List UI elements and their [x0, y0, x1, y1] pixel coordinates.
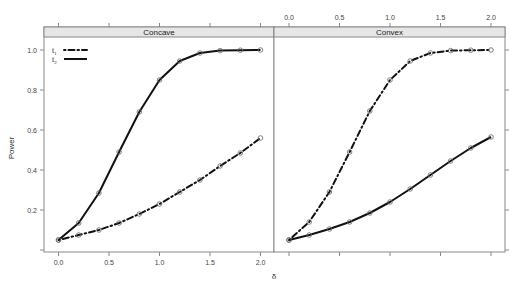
y-tick-label: 0.2 — [27, 207, 37, 214]
panel-convex: Convex — [274, 27, 505, 252]
x-tick-label: 2.0 — [256, 259, 266, 266]
y-tick-label: 0.8 — [27, 87, 37, 94]
y-tick-label: 0.4 — [27, 167, 37, 174]
lattice-power-chart: Concave Convex 0.00.51.01.52.00.00.51.01… — [0, 0, 522, 292]
x-tick-label: 2.0 — [486, 14, 496, 21]
panel-title: Convex — [376, 28, 403, 37]
y-axis-label: Power — [7, 136, 16, 159]
panel-concave: Concave — [44, 27, 274, 252]
panel-title: Concave — [143, 28, 175, 37]
x-tick-label: 1.5 — [205, 259, 215, 266]
x-tick-label: 0.0 — [284, 14, 294, 21]
x-tick-label: 1.5 — [436, 14, 446, 21]
x-tick-label: 0.5 — [104, 259, 114, 266]
x-tick-label: 0.5 — [335, 14, 345, 21]
x-tick-label: 1.0 — [385, 14, 395, 21]
y-tick-label: 0.6 — [27, 127, 37, 134]
x-axis-label: δ — [272, 272, 277, 281]
chart: Concave Convex 0.00.51.01.52.00.00.51.01… — [0, 0, 522, 292]
y-tick-label: 1.0 — [27, 47, 37, 54]
x-tick-label: 1.0 — [155, 259, 165, 266]
x-tick-label: 0.0 — [54, 259, 64, 266]
